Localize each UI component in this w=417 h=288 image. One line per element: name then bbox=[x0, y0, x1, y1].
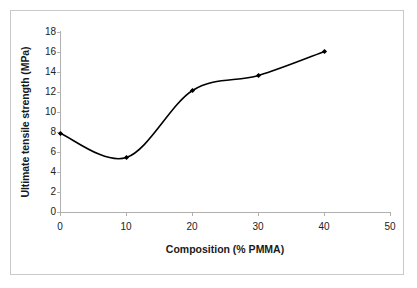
data-point-marker bbox=[58, 131, 63, 136]
data-point-marker bbox=[256, 73, 261, 78]
y-axis-ticks bbox=[57, 33, 60, 213]
data-series-line bbox=[61, 52, 325, 159]
plot-area bbox=[0, 0, 417, 288]
data-point-marker bbox=[322, 49, 327, 54]
axis-lines bbox=[60, 31, 391, 213]
x-axis-ticks bbox=[61, 213, 391, 216]
data-point-marker bbox=[124, 155, 129, 160]
chart-figure: Ultimate tensile strength (MPa) Composit… bbox=[0, 0, 417, 288]
